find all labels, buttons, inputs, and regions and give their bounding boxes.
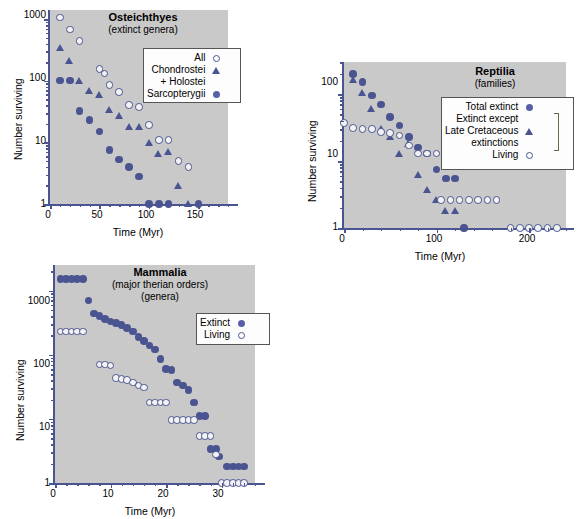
data-point-reptilia-s2: [423, 150, 431, 158]
y-tick-major: [49, 419, 55, 421]
x-tick-minor: [492, 228, 493, 231]
y-tick-minor: [46, 105, 50, 107]
data-point-mammalia-s0: [79, 275, 87, 283]
legend-label: Late Cretaceous: [445, 125, 522, 137]
x-tick-major: [529, 228, 531, 233]
x-tick-minor: [122, 483, 123, 486]
y-tick-minor: [46, 25, 50, 27]
x-tick-minor: [159, 204, 160, 207]
y-tick-minor: [51, 361, 55, 363]
data-point-osteichthyes-s1: [154, 150, 162, 157]
data-point-reptilia-s2: [474, 196, 482, 204]
y-tick-minor: [46, 175, 50, 177]
data-point-osteichthyes-s2: [56, 77, 64, 85]
x-tick-minor: [155, 483, 156, 486]
data-point-reptilia-s0: [442, 175, 450, 183]
y-tick-minor: [340, 176, 344, 178]
y-tick-minor: [340, 97, 344, 99]
data-point-osteichthyes-s1: [174, 182, 182, 189]
y-tick-minor: [46, 83, 50, 85]
y-tick-minor: [340, 167, 344, 169]
x-axis-label-osteichthyes: Time (Myr): [78, 226, 198, 238]
data-point-osteichthyes-s1: [135, 123, 143, 130]
data-point-reptilia-s0: [386, 113, 394, 121]
data-point-osteichthyes-s1: [125, 123, 133, 130]
chart-title-osteichthyes: Osteichthyes (extinct genera): [78, 11, 208, 36]
legend-label: + Holostei: [147, 76, 209, 88]
data-point-reptilia-s2: [368, 125, 376, 133]
x-tick-minor: [244, 483, 245, 486]
y-tick-major: [338, 94, 344, 96]
data-point-mammalia-s1: [190, 416, 198, 424]
data-point-mammalia-s1: [162, 399, 170, 407]
y-tick-minor: [46, 38, 50, 40]
y-tick-minor: [46, 87, 50, 89]
x-tick-minor: [418, 228, 419, 231]
data-point-osteichthyes-s1: [115, 112, 123, 119]
data-point-osteichthyes-s2: [66, 77, 74, 85]
data-point-reptilia-s0: [460, 224, 468, 232]
y-tick-minor: [46, 44, 50, 46]
title-sub: (extinct genera): [78, 24, 208, 36]
legend-reptilia[interactable]: Total extinct Extinct except Late Cretac…: [441, 97, 574, 170]
data-point-reptilia-s1: [414, 171, 422, 178]
y-tick-major: [44, 19, 50, 21]
x-tick-minor: [233, 483, 234, 486]
x-tick-minor: [179, 204, 180, 207]
legend-marker-open-circle-icon: [209, 52, 223, 64]
data-point-osteichthyes-s0: [145, 121, 153, 129]
y-tick-minor: [51, 369, 55, 371]
y-tick-label: 1: [8, 198, 46, 209]
x-tick-minor: [400, 228, 401, 231]
y-tick-minor: [340, 114, 344, 116]
x-tick-minor: [177, 483, 178, 486]
x-tick-minor: [133, 483, 134, 486]
y-tick-minor: [340, 74, 344, 76]
legend-marker-none: [209, 76, 223, 88]
data-point-reptilia-s2: [386, 129, 394, 137]
data-point-reptilia-s2: [377, 128, 385, 136]
legend-label: Living: [200, 329, 234, 341]
legend-marker-none: [522, 137, 536, 149]
y-tick-minor: [51, 425, 55, 427]
legend-label: Extinct: [200, 317, 234, 329]
y-tick-minor: [51, 433, 55, 435]
y-tick-minor: [46, 33, 50, 35]
data-point-reptilia-s2: [553, 224, 561, 232]
y-tick-minor: [340, 171, 344, 173]
y-tick-major: [49, 291, 55, 293]
chart-title-mammalia: Mammalia (major therian orders) (genera): [85, 266, 235, 303]
data-point-mammalia-s0: [240, 463, 248, 471]
x-tick-minor: [188, 204, 189, 207]
x-tick-minor: [70, 204, 71, 207]
y-tick-minor: [340, 129, 344, 131]
y-tick-label: 1000: [10, 295, 50, 306]
chart-title-reptilia: Reptilia (families): [440, 65, 550, 90]
y-tick-minor: [51, 374, 55, 376]
x-tick-label: 0: [332, 233, 352, 244]
data-point-reptilia-s2: [447, 196, 455, 204]
x-tick-major: [344, 228, 346, 233]
legend-label: Total extinct: [445, 101, 522, 113]
legend-osteichthyes[interactable]: All Chondrostei + Holostei Sarcopterygii: [143, 48, 241, 103]
legend-label: Living: [445, 149, 522, 161]
x-tick-label: 0: [38, 209, 58, 220]
y-tick-minor: [51, 297, 55, 299]
data-point-reptilia-s2: [349, 124, 357, 132]
y-tick-major: [44, 81, 50, 83]
legend-mammalia[interactable]: Extinct Living: [196, 313, 270, 345]
y-tick-minor: [340, 141, 344, 143]
data-point-reptilia-s2: [465, 196, 473, 204]
y-axis-label-osteichthyes: Number surviving: [12, 78, 24, 160]
y-tick-minor: [46, 113, 50, 115]
data-point-osteichthyes-s0: [175, 157, 183, 165]
y-tick-minor: [46, 99, 50, 101]
y-axis-label-mammalia: Number surviving: [14, 359, 26, 441]
y-tick-minor: [340, 181, 344, 183]
x-tick-minor: [363, 228, 364, 231]
data-point-reptilia-s1: [423, 186, 431, 193]
y-tick-major: [338, 228, 344, 230]
x-tick-minor: [109, 204, 110, 207]
x-tick-minor: [199, 483, 200, 486]
x-tick-major: [50, 204, 52, 209]
